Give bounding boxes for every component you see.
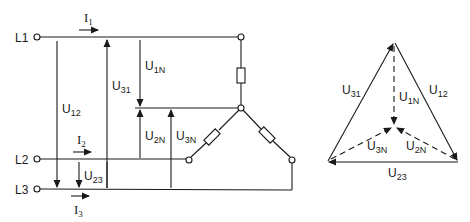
current-i2-label: I2 <box>77 132 86 149</box>
voltage-u3n: U3N <box>171 110 196 188</box>
resistor-phase-3 <box>243 110 295 190</box>
l3-conductor <box>40 189 292 190</box>
l2-load-node <box>186 157 192 163</box>
voltage-u2n-label: U2N <box>145 129 165 145</box>
phasor-u12-label: U12 <box>429 83 448 99</box>
l3-load-node <box>289 157 295 163</box>
phasor-u23-label: U23 <box>388 166 407 182</box>
voltage-u23-label: U23 <box>84 169 103 185</box>
phasor-u2n-label: U2N <box>406 139 426 155</box>
circuit-schematic: L1 I1 <box>15 10 295 219</box>
phasor-u1n: U1N <box>394 46 419 124</box>
voltage-u23: U23 <box>79 162 103 187</box>
phasor-u2n: U2N <box>397 128 455 159</box>
resistor-2-body <box>204 129 220 145</box>
phasor-diagram: U31 U12 U23 U1N U2N U3N <box>328 43 458 182</box>
phasor-u1n-label: U1N <box>399 90 419 106</box>
current-i3: I3 <box>71 196 89 219</box>
line-l2: L2 <box>15 153 186 167</box>
phasor-u3n: U3N <box>331 128 391 159</box>
line-l1: L1 <box>15 31 244 45</box>
resistor-3-body <box>259 127 275 143</box>
voltage-u31-label: U31 <box>112 79 131 95</box>
voltage-u1n-label: U1N <box>145 59 165 75</box>
voltage-u12: U12 <box>57 41 81 187</box>
voltage-u31: U31 <box>107 40 131 188</box>
current-i3-label: I3 <box>74 202 83 219</box>
current-i2: I2 <box>73 132 91 152</box>
voltage-u12-label: U12 <box>62 102 81 118</box>
terminal-l2-label: L2 <box>15 153 29 167</box>
resistor-phase-1 <box>237 40 245 105</box>
phasor-u23: U23 <box>329 162 458 182</box>
star-connection-diagram: L1 I1 <box>0 0 470 222</box>
voltage-u2n: U2N <box>140 110 165 158</box>
terminal-l1-node <box>34 34 40 40</box>
terminal-l1-label: L1 <box>15 31 29 45</box>
phasor-u31-label: U31 <box>342 83 361 99</box>
resistor-1-body <box>237 68 245 83</box>
phasor-u3n-label: U3N <box>367 139 387 155</box>
terminal-l2-node <box>34 156 40 162</box>
terminal-l3-label: L3 <box>15 183 29 197</box>
voltage-u3n-label: U3N <box>176 129 196 145</box>
current-i1-label: I1 <box>84 10 93 27</box>
l1-load-node <box>238 34 244 40</box>
voltage-u1n: U1N <box>140 40 165 106</box>
terminal-l3-node <box>34 186 40 192</box>
current-i1: I1 <box>79 10 98 30</box>
